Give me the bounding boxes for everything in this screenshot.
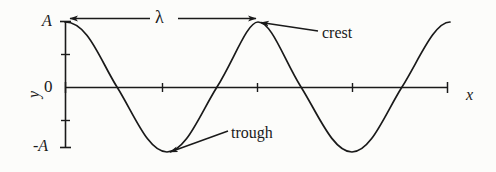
y-tick-label-zero: 0	[44, 78, 53, 95]
y-tick-label-a: A	[42, 13, 52, 29]
crest-label: crest	[322, 25, 352, 41]
wave-diagram-canvas	[0, 0, 496, 172]
wave-diagram: A 0 -A y x λ crest trough	[0, 0, 496, 172]
wavelength-label: λ	[155, 8, 164, 26]
x-axis-label: x	[466, 87, 473, 103]
trough-label: trough	[231, 125, 273, 141]
x-axis	[65, 82, 448, 93]
y-axis-label: y	[26, 91, 42, 98]
y-tick-label-negative-a: -A	[33, 138, 48, 154]
trough-leader-arrow	[170, 131, 228, 152]
